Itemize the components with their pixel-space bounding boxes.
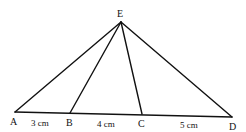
measurement-cd: 5 cm [180,120,198,130]
point-label-e: E [117,8,123,19]
segment-ed [121,22,232,117]
point-label-d: D [229,121,236,132]
segment-eb [70,22,121,113]
segment-ad [15,112,232,117]
segment-ec [121,22,142,114]
point-label-c: C [138,118,145,129]
measurement-ab: 3 cm [31,118,49,128]
point-label-a: A [10,116,18,127]
point-label-b: B [66,117,73,128]
measurement-bc: 4 cm [97,119,115,129]
segment-ea [15,22,121,112]
triangle-diagram: E A B C D 3 cm 4 cm 5 cm [0,0,246,132]
